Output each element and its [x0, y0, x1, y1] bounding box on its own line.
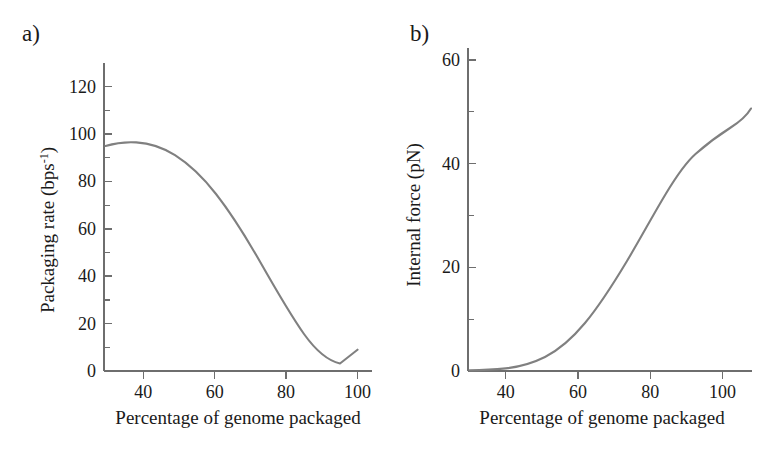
- panel-b-ylabel-group: Internal force (pN): [403, 143, 425, 286]
- x-tick-80: 80: [641, 382, 659, 402]
- y-tick-0: 0: [87, 361, 96, 381]
- panel-b-plot: 0 20 40 60 40 60 80 100 Percentage of ge…: [392, 0, 784, 455]
- y-tick-100: 100: [69, 124, 96, 144]
- panel-b-y-ticks: [468, 60, 476, 371]
- y-tick-60: 60: [442, 50, 460, 70]
- x-tick-100: 100: [344, 382, 371, 402]
- panel-a-ylabel: Packaging rate (bps-1): [37, 147, 59, 313]
- x-tick-40: 40: [134, 382, 152, 402]
- panel-a-xlabel: Percentage of genome packaged: [115, 407, 361, 428]
- panel-b-xlabel: Percentage of genome packaged: [479, 407, 725, 428]
- panel-b-x-ticks: [506, 371, 723, 379]
- y-tick-40: 40: [78, 266, 96, 286]
- y-tick-0: 0: [451, 361, 460, 381]
- y-tick-20: 20: [442, 257, 460, 277]
- panel-b-y-ticklabels: 0 20 40 60: [442, 50, 460, 381]
- panel-a-plot: 0 20 40 60 80 100 120 40 60 80 100: [0, 0, 392, 455]
- x-tick-100: 100: [709, 382, 736, 402]
- panel-b: b) 0 20 40 60: [392, 0, 784, 455]
- panel-a-ylabel-close: ): [37, 147, 59, 153]
- panel-b-ylabel: Internal force (pN): [403, 143, 425, 286]
- panel-a: a) 0 20: [0, 0, 392, 455]
- panel-a-x-ticks: [143, 371, 357, 379]
- y-tick-80: 80: [78, 171, 96, 191]
- y-tick-40: 40: [442, 154, 460, 174]
- x-tick-60: 60: [569, 382, 587, 402]
- panel-a-y-ticklabels: 0 20 40 60 80 100 120: [69, 77, 96, 381]
- panel-a-ylabel-group: Packaging rate (bps-1): [37, 147, 59, 313]
- panel-b-x-ticklabels: 40 60 80 100: [497, 382, 736, 402]
- x-tick-60: 60: [206, 382, 224, 402]
- panel-a-ylabel-main: Packaging rate (bps: [37, 163, 59, 313]
- y-tick-60: 60: [78, 219, 96, 239]
- panel-b-curve: [470, 109, 752, 371]
- x-tick-80: 80: [277, 382, 295, 402]
- figure-container: a) 0 20: [0, 0, 784, 455]
- panel-a-x-ticklabels: 40 60 80 100: [134, 382, 371, 402]
- panel-a-curve: [106, 142, 358, 363]
- y-tick-20: 20: [78, 314, 96, 334]
- x-tick-40: 40: [497, 382, 515, 402]
- panel-a-y-ticks: [104, 87, 112, 371]
- y-tick-120: 120: [69, 77, 96, 97]
- panel-a-ylabel-sup: -1: [37, 153, 51, 163]
